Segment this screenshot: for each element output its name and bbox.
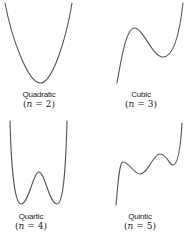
quartic-curve — [10, 121, 67, 204]
quintic-degree: (n = 5) — [100, 222, 180, 231]
quintic-label: Quintic (n = 5) — [100, 213, 180, 231]
cubic-degree: (n = 3) — [101, 100, 181, 109]
quadratic-curve — [5, 3, 72, 83]
quartic-degree: (n = 4) — [0, 222, 71, 231]
quintic-curve — [116, 123, 182, 205]
cubic-label: Cubic (n = 3) — [101, 91, 181, 109]
quadratic-label: Quadratic (n = 2) — [0, 91, 79, 109]
quadratic-degree: (n = 2) — [0, 100, 79, 109]
cubic-curve — [117, 3, 183, 83]
quartic-label: Quartic (n = 4) — [0, 213, 71, 231]
polynomial-curves-canvas — [0, 0, 188, 240]
